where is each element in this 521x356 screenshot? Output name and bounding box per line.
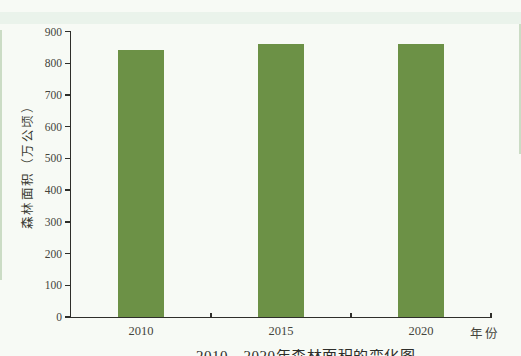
x-axis-tick — [490, 313, 491, 318]
x-axis-tick — [210, 313, 211, 318]
bar-2015 — [258, 44, 304, 317]
y-axis-tick-label: 200 — [28, 247, 62, 261]
y-axis-tick — [65, 316, 70, 317]
y-axis-title: 森林面积（万公顷） — [17, 99, 36, 230]
y-axis-tick-label: 900 — [28, 25, 62, 39]
y-axis-tick — [65, 285, 70, 286]
x-axis-category-label: 2010 — [109, 324, 173, 338]
bar-chart-plot-area: 0100200300400500600700800900201020152020 — [0, 0, 521, 356]
y-axis-tick-label: 0 — [28, 310, 62, 324]
y-axis-tick — [65, 94, 70, 95]
y-axis-tick — [65, 126, 70, 127]
y-axis-tick — [65, 31, 70, 32]
y-axis-tick — [65, 253, 70, 254]
x-axis-unit-label: 年份 — [470, 323, 514, 342]
y-axis-line — [70, 31, 72, 318]
y-axis-tick — [65, 158, 70, 159]
x-axis-category-label: 2015 — [249, 324, 313, 338]
y-axis-tick — [65, 189, 70, 190]
y-axis-tick — [65, 63, 70, 64]
figure-canvas: 0100200300400500600700800900201020152020… — [0, 0, 521, 356]
y-axis-tick-label: 800 — [28, 56, 62, 70]
y-axis-tick — [65, 221, 70, 222]
y-axis-tick-label: 100 — [28, 278, 62, 292]
x-axis-category-label: 2020 — [389, 324, 453, 338]
bar-2010 — [118, 50, 164, 317]
bar-2020 — [398, 44, 444, 317]
x-axis-tick — [350, 313, 351, 318]
figure-caption-clipped: 2010—2020年森林面积的变化图 — [196, 349, 458, 356]
